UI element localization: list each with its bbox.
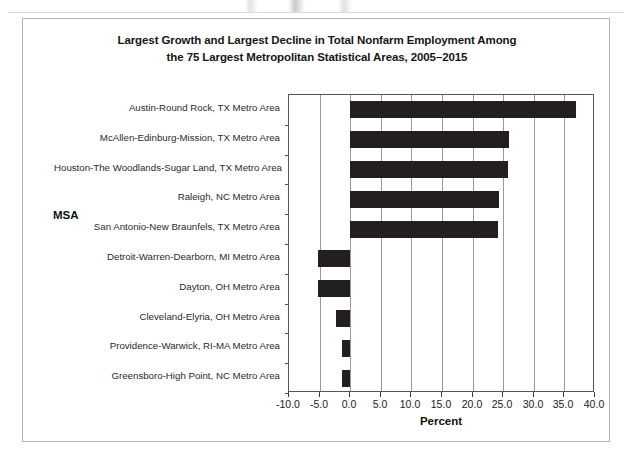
category-tick	[285, 214, 289, 215]
category-tick	[285, 244, 289, 245]
x-tick-0.0	[349, 392, 350, 397]
bar	[350, 191, 499, 208]
chart-title-line-2: the 75 Largest Metropolitan Statistical …	[53, 49, 581, 66]
x-tick-15.0	[441, 392, 442, 397]
category-tick	[285, 184, 289, 185]
category-label: Greensboro-High Point, NC Metro Area	[54, 370, 280, 381]
category-tick	[285, 125, 289, 126]
category-tick	[285, 304, 289, 305]
x-tick-10.0	[410, 392, 411, 397]
bar	[342, 340, 351, 357]
category-label: Houston-The Woodlands-Sugar Land, TX Met…	[54, 162, 280, 173]
x-tick-25.0	[502, 392, 503, 397]
x-tick--5.0	[319, 392, 320, 397]
x-axis-tick-labels: -10.0-5.00.05.010.015.020.025.030.035.04…	[278, 398, 608, 414]
category-label: McAllen-Edinburg-Mission, TX Metro Area	[54, 132, 280, 143]
category-label: San Antonio-New Braunfels, TX Metro Area	[54, 221, 280, 232]
x-tick-20.0	[472, 392, 473, 397]
category-tick	[285, 333, 289, 334]
chart-title: Largest Growth and Largest Decline in To…	[53, 32, 581, 66]
category-label: Dayton, OH Metro Area	[54, 281, 280, 292]
scan-artifact-line	[8, 12, 624, 13]
bar	[342, 370, 351, 387]
x-tick-30.0	[533, 392, 534, 397]
bar	[350, 131, 509, 148]
x-tick-5.0	[380, 392, 381, 397]
bar	[318, 280, 350, 297]
bar	[350, 161, 508, 178]
bar	[350, 101, 576, 118]
bar	[350, 221, 497, 238]
x-tick-40.0	[594, 392, 595, 397]
category-label: Austin-Round Rock, TX Metro Area	[54, 102, 280, 113]
bar	[336, 310, 350, 327]
x-tick-35.0	[563, 392, 564, 397]
x-tick-label: 40.0	[574, 398, 614, 410]
category-tick	[285, 274, 289, 275]
bar	[318, 250, 350, 267]
category-label: Cleveland-Elyria, OH Metro Area	[54, 311, 280, 322]
category-tick	[285, 363, 289, 364]
category-label: Detroit-Warren-Dearborn, MI Metro Area	[54, 251, 280, 262]
category-label: Providence-Warwick, RI-MA Metro Area	[54, 340, 280, 351]
scan-artifact-top	[0, 0, 630, 12]
category-tick	[285, 155, 289, 156]
category-label: Raleigh, NC Metro Area	[54, 191, 280, 202]
x-axis-title: Percent	[288, 415, 594, 427]
category-axis-labels: Austin-Round Rock, TX Metro AreaMcAllen-…	[58, 94, 284, 392]
chart-frame: Largest Growth and Largest Decline in To…	[22, 18, 610, 442]
bars-layer	[289, 95, 593, 391]
plot-area	[288, 94, 594, 392]
x-tick--10.0	[288, 392, 289, 397]
chart-title-line-1: Largest Growth and Largest Decline in To…	[53, 32, 581, 49]
